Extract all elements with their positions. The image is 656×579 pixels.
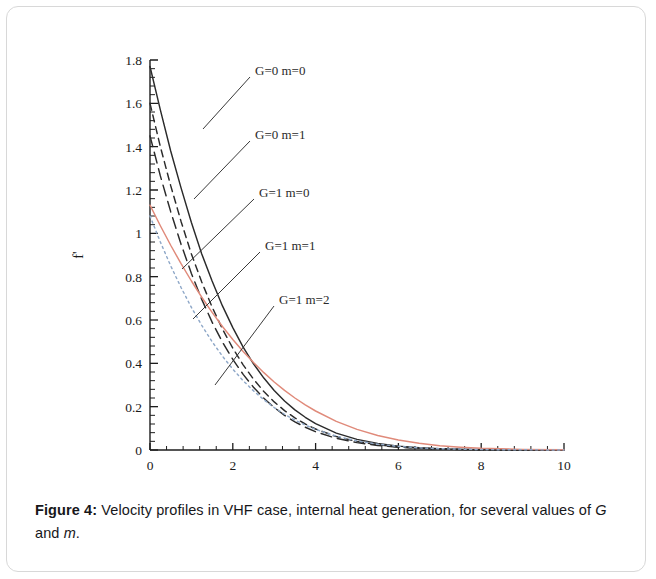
figure-caption-symbol-m: m <box>64 525 76 541</box>
figure-caption-conjunction: and <box>35 525 64 541</box>
x-tick-label: 10 <box>557 458 571 473</box>
series-annotation-label: G=1 m=1 <box>265 238 315 253</box>
y-tick-label: 0.6 <box>125 313 142 328</box>
y-tick-label: 0 <box>135 443 142 458</box>
x-tick-label: 6 <box>395 458 402 473</box>
y-tick-label: 0.4 <box>125 356 142 371</box>
velocity-profile-chart: 024681000.20.40.60.811.21.41.61.8ηf'G=0 … <box>7 7 646 477</box>
series-curve <box>150 67 564 451</box>
series-annotation-label: G=0 m=1 <box>255 127 305 142</box>
figure-caption: Figure 4: Velocity profiles in VHF case,… <box>35 499 625 546</box>
y-tick-label: 1.8 <box>125 53 142 68</box>
series-annotation-label: G=0 m=0 <box>255 63 305 78</box>
y-tick-label: 1.2 <box>125 183 142 198</box>
figure-caption-text: Velocity profiles in VHF case, internal … <box>97 502 595 518</box>
y-tick-label: 1 <box>135 226 142 241</box>
plot-area: 024681000.20.40.60.811.21.41.61.8ηf'G=0 … <box>7 7 646 477</box>
series-curve <box>150 216 564 450</box>
series-curve <box>150 103 564 450</box>
y-tick-label: 1.4 <box>125 140 142 155</box>
series-curve <box>150 136 564 450</box>
figure-card: 024681000.20.40.60.811.21.41.61.8ηf'G=0 … <box>6 6 646 572</box>
y-axis-title: f' <box>70 251 86 258</box>
x-tick-label: 0 <box>147 458 154 473</box>
annotation-leader-line <box>182 199 254 269</box>
y-tick-label: 0.8 <box>125 270 142 285</box>
annotation-leader-line <box>193 252 260 319</box>
annotation-leader-line <box>194 141 250 199</box>
figure-caption-symbol-g: G <box>595 502 606 518</box>
y-tick-label: 0.2 <box>125 400 142 415</box>
figure-caption-period: . <box>76 525 80 541</box>
series-curve <box>150 205 564 450</box>
y-tick-label: 1.6 <box>125 96 142 111</box>
x-tick-label: 2 <box>229 458 236 473</box>
annotation-leader-line <box>203 77 250 129</box>
figure-caption-label: Figure 4: <box>35 502 97 518</box>
x-tick-label: 8 <box>478 458 485 473</box>
series-annotation-label: G=1 m=0 <box>259 185 309 200</box>
x-tick-label: 4 <box>312 458 319 473</box>
series-annotation-label: G=1 m=2 <box>279 292 329 307</box>
